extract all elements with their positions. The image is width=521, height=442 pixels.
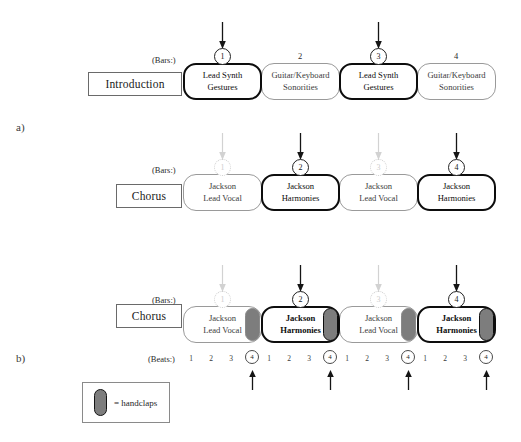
event-line-2: Lead Vocal (359, 193, 398, 204)
accent-arrow-bar2-row3 (296, 265, 305, 293)
event-line-1: Guitar/Keyboard (271, 70, 329, 81)
bars-label-row3: (Bars:) (152, 295, 176, 305)
beat-1-bar1: 1 (186, 354, 196, 363)
event-line-2: Sonorities (283, 82, 318, 93)
beat-2-bar1: 2 (206, 354, 216, 363)
bar-circle-1-row3: 1 (214, 291, 231, 308)
event-line-2: Harmonies (280, 325, 321, 336)
event-line-1: Jackson (365, 313, 392, 324)
legend: = handclaps (82, 382, 170, 423)
event-line-1: Jackson (442, 313, 472, 324)
event-line-2: Lead Vocal (203, 325, 242, 336)
beat-2-bar2: 2 (284, 354, 294, 363)
bars-label-row1: (Bars:) (152, 55, 176, 65)
event-line-2: Lead Vocal (359, 325, 398, 336)
beat-3-bar3: 3 (382, 354, 392, 363)
bar-circle-2-row3: 2 (292, 291, 309, 308)
faint-arrow-bar3-row3 (374, 265, 383, 293)
event-line-1: Jackson (287, 181, 314, 192)
event-box-row2-bar3: Jackson Lead Vocal (339, 174, 418, 211)
event-box-row1-bar3: Lead Synth Gestures (339, 63, 418, 100)
faint-arrow-bar3-row2 (374, 133, 383, 161)
handclap-arrow-bar1 (248, 370, 257, 390)
event-line-2: Harmonies (436, 325, 477, 336)
beat-4-circle-bar3: 4 (401, 350, 415, 364)
event-line-1: Jackson (209, 181, 236, 192)
event-box-row1-bar4: Guitar/Keyboard Sonorities (417, 63, 496, 100)
event-line-2: Harmonies (438, 193, 476, 204)
legend-label: = handclaps (114, 398, 157, 408)
handclap-arrow-bar2 (326, 370, 335, 390)
section-letter-b: b) (16, 352, 25, 364)
beat-3-bar4: 3 (460, 354, 470, 363)
bar-circle-1-row2: 1 (214, 159, 231, 176)
beat-2-bar3: 2 (362, 354, 372, 363)
event-line-1: Lead Synth (359, 70, 398, 81)
section-name-chorus-row2: Chorus (116, 184, 182, 208)
event-line-2: Harmonies (282, 193, 320, 204)
event-box-row2-bar4: Jackson Harmonies (417, 174, 496, 211)
beat-1-bar4: 1 (420, 354, 430, 363)
bars-label-row2: (Bars:) (152, 165, 176, 175)
handclap-arrow-bar4 (482, 370, 491, 390)
event-line-1: Jackson (443, 181, 470, 192)
event-line-2: Gestures (207, 82, 237, 93)
event-line-1: Lead Synth (203, 70, 242, 81)
handclap-pill-icon (94, 389, 107, 416)
event-line-1: Jackson (286, 313, 316, 324)
beat-4-circle-bar2: 4 (323, 350, 337, 364)
bar-circle-4-row3: 4 (448, 291, 465, 308)
accent-arrow-bar4-row2 (452, 133, 461, 161)
beat-4-circle-bar4: 4 (479, 350, 493, 364)
bar-circle-2-row2: 2 (292, 159, 309, 176)
event-box-row1-bar2: Guitar/Keyboard Sonorities (261, 63, 340, 100)
accent-arrow-bar4-row3 (452, 265, 461, 293)
beat-4-circle-bar1: 4 (245, 350, 259, 364)
event-box-row1-bar1: Lead Synth Gestures (183, 63, 262, 100)
faint-arrow-bar1-row2 (218, 133, 227, 161)
bar-circle-4-row2: 4 (448, 159, 465, 176)
event-line-2: Lead Vocal (203, 193, 242, 204)
bar-number-4-row1: 4 (448, 51, 464, 61)
faint-arrow-bar1-row3 (218, 265, 227, 293)
beat-3-bar2: 3 (304, 354, 314, 363)
figure-canvas: a) b) Introduction (Bars:) 1 2 3 4 Lead … (0, 0, 521, 442)
beat-3-bar1: 3 (226, 354, 236, 363)
handclap-marker-bar1 (245, 308, 260, 341)
handclap-marker-bar2 (323, 308, 338, 341)
handclap-marker-bar4 (479, 308, 494, 341)
section-name-chorus-row3: Chorus (116, 304, 182, 328)
section-name-introduction: Introduction (88, 72, 182, 96)
bar-number-2-row1: 2 (292, 51, 308, 61)
beat-2-bar4: 2 (440, 354, 450, 363)
event-line-1: Guitar/Keyboard (427, 70, 485, 81)
event-box-row2-bar2: Jackson Harmonies (261, 174, 340, 211)
accent-arrow-bar1-row1 (218, 22, 227, 50)
bar-circle-3-row3: 3 (370, 291, 387, 308)
beat-1-bar2: 1 (264, 354, 274, 363)
section-letter-a: a) (16, 121, 25, 133)
event-box-row2-bar1: Jackson Lead Vocal (183, 174, 262, 211)
accent-arrow-bar3-row1 (374, 22, 383, 50)
event-line-2: Sonorities (439, 82, 474, 93)
beat-1-bar3: 1 (342, 354, 352, 363)
beats-label: (Beats:) (148, 354, 175, 364)
event-line-1: Jackson (365, 181, 392, 192)
handclap-marker-bar3 (401, 308, 416, 341)
accent-arrow-bar2-row2 (296, 133, 305, 161)
bar-circle-1-row1: 1 (214, 48, 231, 65)
event-line-1: Jackson (209, 313, 236, 324)
bar-circle-3-row1: 3 (370, 48, 387, 65)
bar-circle-3-row2: 3 (370, 159, 387, 176)
handclap-arrow-bar3 (404, 370, 413, 390)
event-line-2: Gestures (363, 82, 393, 93)
